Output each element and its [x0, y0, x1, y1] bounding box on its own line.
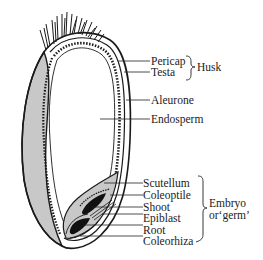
label-testa: Testa — [151, 66, 175, 78]
grain-illustration — [0, 0, 263, 260]
label-endosperm: Endosperm — [151, 113, 203, 125]
embryo-brace — [196, 176, 207, 242]
label-husk: Husk — [197, 61, 221, 73]
label-coleorhiza: Coleorhiza — [143, 235, 193, 247]
label-coleoptile: Coleoptile — [143, 189, 191, 201]
crease-shaded-region — [22, 52, 62, 246]
crease-inner-edge — [49, 60, 66, 228]
label-germ: or‘germ’ — [209, 209, 250, 221]
label-scutellum: Scutellum — [143, 177, 190, 189]
label-aleurone: Aleurone — [151, 94, 194, 106]
husk-brace — [186, 56, 195, 80]
label-embryo: Embryo — [209, 197, 246, 209]
label-epiblast: Epiblast — [143, 212, 181, 224]
grain-diagram: Pericap Testa Husk Aleurone Endosperm Sc… — [0, 0, 263, 260]
